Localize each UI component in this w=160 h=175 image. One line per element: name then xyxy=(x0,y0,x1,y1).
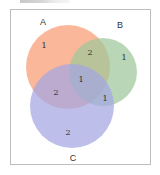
venn-diagram: A B C 1 2 1 1 2 1 2 xyxy=(0,0,160,175)
region-label-c-only: 2 xyxy=(65,128,70,137)
set-label-c: C xyxy=(70,153,77,163)
set-label-a: A xyxy=(40,17,46,27)
region-label-a-only: 1 xyxy=(41,41,46,50)
region-label-bc: 1 xyxy=(102,94,107,103)
set-label-b: B xyxy=(117,20,123,30)
region-label-abc: 1 xyxy=(78,75,83,84)
region-label-ab: 2 xyxy=(87,48,92,57)
region-label-ac: 2 xyxy=(53,88,58,97)
region-label-b-only: 1 xyxy=(121,53,126,62)
set-circle-c xyxy=(30,64,114,148)
